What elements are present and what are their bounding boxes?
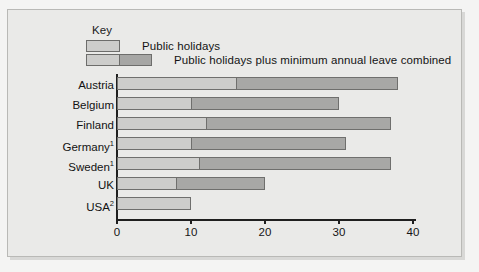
legend-swatch-combined-dark <box>119 54 152 66</box>
category-label-finland: Finland <box>0 119 114 131</box>
x-tick-label-3: 30 <box>333 226 346 238</box>
bar-usa[interactable] <box>117 197 191 210</box>
x-tick-1 <box>190 219 192 224</box>
x-tick-2 <box>264 219 266 224</box>
x-axis-line <box>116 219 416 221</box>
x-tick-4 <box>412 219 414 224</box>
category-name-austria: Austria <box>78 79 114 91</box>
category-name-germany: Germany <box>63 141 110 153</box>
legend-swatch-combined-light <box>86 54 119 66</box>
bar-finland[interactable] <box>117 117 391 130</box>
legend-item-combined: Public holidays plus minimum annual leav… <box>86 54 451 66</box>
bar-segment-public-holidays <box>118 198 190 209</box>
plot-area: 0 10 20 30 40 Austria Belgium Finland Ge… <box>116 74 418 219</box>
chart-legend: Key Public holidays Public holidays plus… <box>86 24 446 72</box>
legend-item-public-holidays: Public holidays <box>86 40 220 52</box>
category-note-sweden: 1 <box>110 159 114 168</box>
x-tick-0 <box>116 219 118 224</box>
chart-panel: Key Public holidays Public holidays plus… <box>7 9 462 257</box>
bar-segment-public-holidays <box>118 98 191 109</box>
bar-belgium[interactable] <box>117 97 339 110</box>
x-tick-label-1: 10 <box>185 226 198 238</box>
bar-segment-combined <box>236 78 398 89</box>
chart-screenshot: Key Public holidays Public holidays plus… <box>0 0 479 272</box>
bar-segment-combined <box>199 158 390 169</box>
bar-segment-combined <box>206 118 390 129</box>
category-label-austria: Austria <box>0 79 114 91</box>
category-name-sweden: Sweden <box>68 161 110 173</box>
legend-label-combined: Public holidays plus minimum annual leav… <box>174 54 451 66</box>
category-label-uk: UK <box>0 179 114 191</box>
category-note-usa: 2 <box>110 199 114 208</box>
bar-segment-public-holidays <box>118 118 206 129</box>
category-name-usa: USA <box>86 201 110 213</box>
category-label-germany: Germany1 <box>0 139 114 153</box>
x-tick-3 <box>338 219 340 224</box>
legend-label-public-holidays: Public holidays <box>142 40 220 52</box>
bar-austria[interactable] <box>117 77 398 90</box>
category-name-belgium: Belgium <box>72 99 114 111</box>
category-name-finland: Finland <box>76 119 114 131</box>
bar-segment-combined <box>191 138 345 149</box>
bar-germany[interactable] <box>117 137 346 150</box>
legend-title: Key <box>92 24 112 36</box>
bar-uk[interactable] <box>117 177 265 190</box>
legend-swatch-light <box>86 40 120 52</box>
category-note-germany: 1 <box>110 139 114 148</box>
bar-segment-public-holidays <box>118 78 236 89</box>
category-label-usa: USA2 <box>0 199 114 213</box>
category-label-sweden: Sweden1 <box>0 159 114 173</box>
x-tick-label-2: 20 <box>259 226 272 238</box>
category-name-uk: UK <box>98 179 114 191</box>
bar-segment-public-holidays <box>118 138 191 149</box>
x-tick-label-0: 0 <box>114 226 120 238</box>
bar-sweden[interactable] <box>117 157 391 170</box>
category-label-belgium: Belgium <box>0 99 114 111</box>
x-tick-label-4: 40 <box>407 226 420 238</box>
bar-segment-combined <box>176 178 264 189</box>
bar-segment-combined <box>191 98 338 109</box>
bar-segment-public-holidays <box>118 178 176 189</box>
bar-segment-public-holidays <box>118 158 199 169</box>
